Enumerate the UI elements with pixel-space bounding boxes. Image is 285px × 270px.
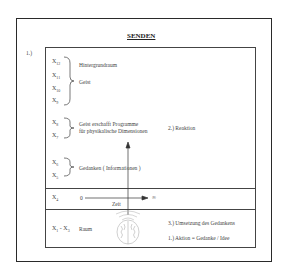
time-arrow-icon (85, 196, 148, 200)
brain-icon (117, 220, 139, 244)
curly-brace-icon (64, 57, 74, 176)
diagram-graphics (0, 0, 285, 270)
up-arrow-icon (126, 142, 130, 215)
